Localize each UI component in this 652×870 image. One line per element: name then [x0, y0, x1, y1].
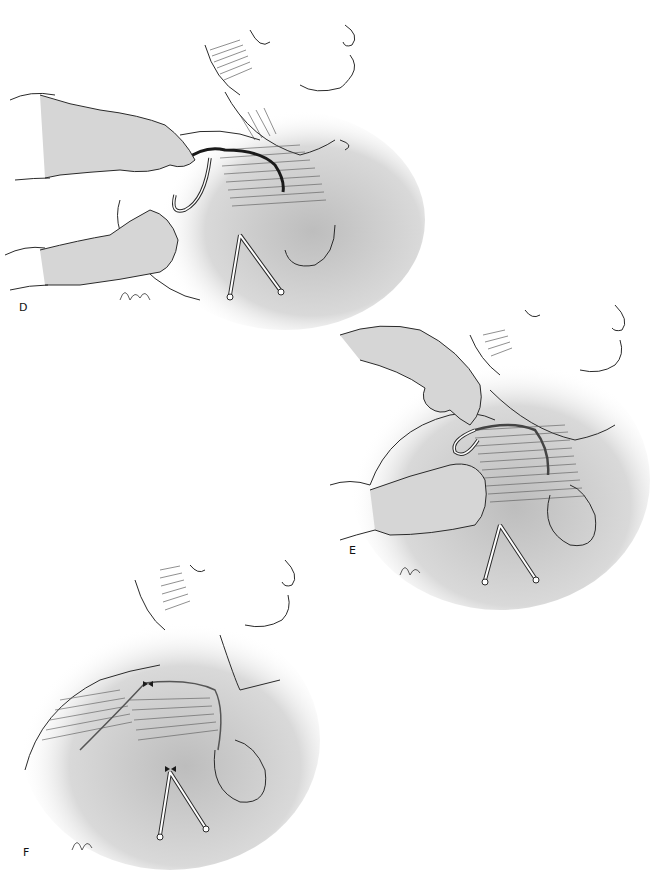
panel-label-d: D: [19, 301, 27, 314]
illustration-panel-e: E: [300, 280, 652, 610]
illustration-panel-f: F: [0, 540, 320, 870]
artist-signature: [120, 293, 150, 301]
surgical-drawing-e: [300, 280, 652, 610]
surgical-drawing-f: [0, 540, 320, 870]
surgical-drawing-d: [0, 0, 420, 310]
panel-label-f: F: [23, 846, 29, 859]
panel-label-e: E: [349, 544, 356, 557]
illustration-panel-d: D: [0, 0, 420, 310]
